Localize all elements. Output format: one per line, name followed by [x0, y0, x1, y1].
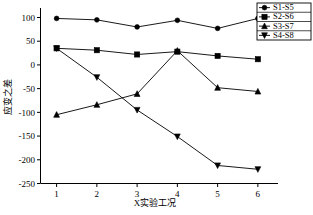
x-tick-label: 5 [215, 189, 220, 199]
y-tick-label: -250 [19, 179, 36, 189]
y-tick-label: 0 [31, 60, 36, 70]
x-tick-label: 3 [135, 189, 140, 199]
x-tick-label: 4 [175, 189, 180, 199]
y-tick-label: 100 [22, 13, 36, 23]
x-axis-title: X实验工况 [134, 197, 177, 208]
y-tick-label: -150 [19, 131, 36, 141]
data-point [215, 26, 220, 31]
legend-marker [262, 5, 267, 10]
y-tick-label: -200 [19, 155, 36, 165]
y-tick-label: -50 [23, 84, 35, 94]
data-point [135, 25, 140, 30]
legend-label: S4-S8 [273, 30, 294, 40]
data-point [94, 17, 99, 22]
y-axis-title: 应变之差 [2, 79, 13, 115]
data-point [215, 53, 220, 58]
y-tick-label: -100 [19, 108, 36, 118]
data-point [94, 48, 99, 53]
line-chart: 100500-50-100-150-200-250 123456 应变之差 X实… [0, 0, 313, 215]
x-tick-label: 6 [256, 189, 261, 199]
legend-marker [262, 14, 267, 19]
data-point [255, 57, 260, 62]
y-tick-label: 50 [26, 36, 36, 46]
x-tick-label: 2 [95, 189, 100, 199]
data-point [135, 52, 140, 57]
data-point [175, 18, 180, 23]
x-tick-label: 1 [54, 189, 59, 199]
chart-container: 100500-50-100-150-200-250 123456 应变之差 X实… [0, 0, 313, 215]
chart-legend: S1-S5S2-S6S3-S7S4-S8 [257, 2, 311, 40]
data-point [54, 16, 59, 21]
